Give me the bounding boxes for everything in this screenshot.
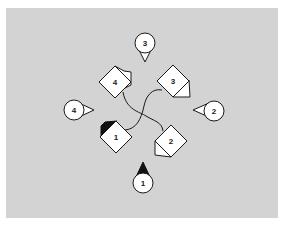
marker-3-label: 3 (143, 39, 148, 48)
piece-1-label: 1 (114, 133, 119, 142)
piece-3-label: 3 (171, 77, 176, 86)
diagram-canvas: 4 3 1 2 3 1 4 2 (0, 0, 292, 229)
piece-2-label: 2 (169, 137, 174, 146)
marker-1-label: 1 (141, 179, 146, 188)
marker-4-label: 4 (72, 106, 77, 115)
marker-2-label: 2 (212, 107, 217, 116)
piece-4-label: 4 (113, 78, 118, 87)
